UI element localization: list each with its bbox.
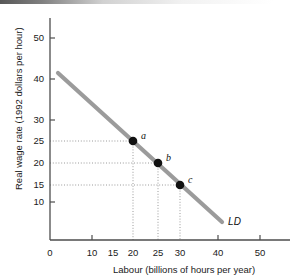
y-tick-label-30: 30 bbox=[26, 114, 44, 125]
x-tick-label-40: 40 bbox=[210, 247, 226, 258]
labour-demand-curve bbox=[58, 73, 222, 222]
x-axis-title: Labour (billions of hours per year) bbox=[113, 264, 255, 275]
y-tick-label-40: 40 bbox=[26, 73, 44, 84]
y-tick-label-20: 20 bbox=[26, 157, 44, 168]
x-tick-label-0: 0 bbox=[42, 247, 58, 258]
x-tick-label-15: 15 bbox=[105, 247, 121, 258]
y-tick-label-15: 15 bbox=[26, 179, 44, 190]
y-axis-ticks bbox=[50, 38, 55, 202]
data-point-label-b: b bbox=[166, 152, 171, 163]
x-tick-label-10: 10 bbox=[84, 247, 100, 258]
y-tick-label-50: 50 bbox=[26, 32, 44, 43]
data-point-label-a: a bbox=[141, 130, 146, 141]
x-tick-label-20: 20 bbox=[125, 247, 141, 258]
y-tick-label-10: 10 bbox=[26, 196, 44, 207]
data-point-label-c: c bbox=[188, 174, 192, 185]
data-point-b bbox=[154, 159, 163, 168]
y-axis-title: Real wage rate (1992 dollars per hour) bbox=[13, 27, 24, 190]
x-tick-label-30: 30 bbox=[172, 247, 188, 258]
chart-figure: 50 40 30 25 20 15 10 0 10 15 20 25 30 40… bbox=[0, 0, 303, 279]
x-tick-label-25: 25 bbox=[150, 247, 166, 258]
chart-plot-area bbox=[0, 0, 303, 279]
data-point-a bbox=[129, 137, 138, 146]
data-point-c bbox=[176, 181, 185, 190]
curve-label-ld: LD bbox=[228, 216, 241, 227]
y-tick-label-25: 25 bbox=[26, 135, 44, 146]
x-tick-label-50: 50 bbox=[252, 247, 268, 258]
x-axis-ticks bbox=[92, 235, 260, 240]
guide-lines-vertical bbox=[133, 141, 180, 240]
